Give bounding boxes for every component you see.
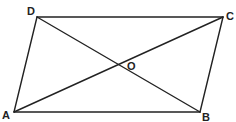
vertex-label-c: C [226,10,234,22]
diagonals [14,17,223,112]
vertex-label-b: B [202,111,210,122]
parallelogram-diagram: D C A B O [0,0,236,122]
side-bc [200,17,223,112]
diagonal-db [37,17,200,112]
vertex-label-d: D [27,5,35,17]
intersection-label-o: O [127,60,136,72]
vertex-label-a: A [2,109,10,121]
side-da [14,17,37,112]
